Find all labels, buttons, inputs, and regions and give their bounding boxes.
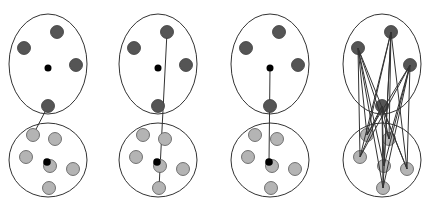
points xyxy=(128,26,193,195)
cluster-b-point xyxy=(20,151,33,164)
cluster-b-point xyxy=(43,182,56,195)
cluster-a-point xyxy=(51,26,64,39)
points xyxy=(18,26,83,195)
link-line xyxy=(269,68,270,162)
panel-complete-link xyxy=(119,14,197,197)
cluster-b-point xyxy=(130,151,143,164)
cluster-a-centroid xyxy=(267,65,274,72)
cluster-a-point xyxy=(18,42,31,55)
cluster-a-point xyxy=(42,100,55,113)
cluster-b-point xyxy=(289,163,302,176)
points xyxy=(240,26,305,195)
cluster-b-point xyxy=(137,129,150,142)
panel-single-link xyxy=(9,14,87,197)
cluster-a-point xyxy=(264,100,277,113)
cluster-b-point xyxy=(27,129,40,142)
cluster-a-point xyxy=(292,59,305,72)
cluster-a-centroid xyxy=(155,65,162,72)
cluster-a-point xyxy=(240,42,253,55)
cluster-b-point xyxy=(265,182,278,195)
cluster-b-point xyxy=(242,151,255,164)
cluster-a-point xyxy=(152,100,165,113)
cluster-b-point xyxy=(49,133,62,146)
cluster-a-point xyxy=(273,26,286,39)
cluster-a-centroid xyxy=(45,65,52,72)
links xyxy=(269,68,270,162)
cluster-a-point xyxy=(180,59,193,72)
panel-centroid-link xyxy=(231,14,309,197)
link-line xyxy=(407,65,410,169)
cluster-b-centroid xyxy=(153,158,161,166)
cluster-a-point xyxy=(128,42,141,55)
cluster-b-point xyxy=(249,129,262,142)
link-line xyxy=(358,48,383,188)
linkage-diagram xyxy=(0,0,435,210)
cluster-b-centroid xyxy=(265,158,273,166)
cluster-b-point xyxy=(67,163,80,176)
panel-average-link xyxy=(343,14,421,197)
cluster-b-point xyxy=(177,163,190,176)
cluster-b-centroid xyxy=(43,158,51,166)
cluster-b-point xyxy=(153,182,166,195)
diagram-svg xyxy=(0,0,435,210)
cluster-b-point xyxy=(159,133,172,146)
cluster-a-point xyxy=(70,59,83,72)
cluster-a-point xyxy=(161,26,174,39)
cluster-b-point xyxy=(271,133,284,146)
